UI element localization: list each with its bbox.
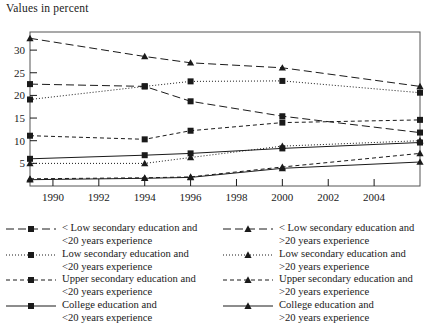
legend-label-line1: < Low secondary education and <box>62 222 197 235</box>
legend-label-line2: <20 years experience <box>62 261 217 274</box>
plot-frame <box>30 32 420 186</box>
legend-label-line2: >20 years experience <box>279 261 434 274</box>
legend-swatch-square-solid <box>0 299 62 312</box>
legend-label-line2: >20 years experience <box>279 312 434 325</box>
svg-text:1990: 1990 <box>42 191 65 203</box>
legend-label-line1: College education and <box>62 299 157 312</box>
svg-text:5: 5 <box>20 157 26 169</box>
svg-text:1998: 1998 <box>225 191 248 203</box>
svg-text:2004: 2004 <box>363 191 386 203</box>
svg-text:10: 10 <box>14 135 26 147</box>
legend-swatch-square-dotted <box>0 248 62 261</box>
legend-swatch-triangle-short-dash <box>217 273 279 286</box>
legend-item[interactable]: College education and <20 years experien… <box>0 299 217 325</box>
svg-text:20: 20 <box>14 89 26 101</box>
legend-item[interactable]: Low secondary education and >20 years ex… <box>217 248 434 274</box>
series-lines <box>26 35 423 183</box>
svg-text:15: 15 <box>14 112 26 124</box>
chart-legend: < Low secondary education and <20 years … <box>0 222 435 328</box>
legend-item[interactable]: < Low secondary education and >20 years … <box>217 222 434 248</box>
legend-swatch-square-short-dash <box>0 273 62 286</box>
legend-swatch-triangle-solid <box>217 299 279 312</box>
legend-item[interactable]: < Low secondary education and <20 years … <box>0 222 217 248</box>
legend-swatch-triangle-dotted <box>217 248 279 261</box>
y-axis-title: Values in percent <box>6 2 89 14</box>
legend-label-line1: College education and <box>279 299 374 312</box>
svg-text:1994: 1994 <box>134 191 157 203</box>
legend-label-line1: Low secondary education and <box>279 248 406 261</box>
legend-item[interactable]: Upper secondary education and >20 years … <box>217 273 434 299</box>
line-chart-svg: 5101520253019901992199419961998200020022… <box>0 14 435 204</box>
svg-text:25: 25 <box>14 67 26 79</box>
legend-item[interactable]: College education and >20 years experien… <box>217 299 434 325</box>
legend-column-right: < Low secondary education and >20 years … <box>217 222 434 328</box>
legend-item[interactable]: Low secondary education and <20 years ex… <box>0 248 217 274</box>
legend-label-line1: < Low secondary education and <box>279 222 414 235</box>
legend-item[interactable]: Upper secondary education and <20 years … <box>0 273 217 299</box>
legend-label-line1: Upper secondary education and <box>62 273 196 286</box>
legend-swatch-triangle-long-dash <box>217 222 279 235</box>
svg-text:2000: 2000 <box>271 191 294 203</box>
axis-ticks <box>30 50 374 186</box>
legend-label-line2: >20 years experience <box>279 286 434 299</box>
chart-figure: Values in percent 5101520253019901992199… <box>0 0 435 328</box>
plot-area: 5101520253019901992199419961998200020022… <box>0 14 435 200</box>
legend-label-line2: >20 years experience <box>279 235 434 248</box>
svg-text:1992: 1992 <box>88 191 110 203</box>
svg-text:1996: 1996 <box>180 191 203 203</box>
legend-label-line1: Upper secondary education and <box>279 273 413 286</box>
svg-text:2002: 2002 <box>317 191 339 203</box>
svg-text:30: 30 <box>14 44 26 56</box>
legend-swatch-square-long-dash <box>0 222 62 235</box>
legend-label-line2: <20 years experience <box>62 312 217 325</box>
legend-label-line1: Low secondary education and <box>62 248 189 261</box>
legend-column-left: < Low secondary education and <20 years … <box>0 222 217 328</box>
legend-label-line2: <20 years experience <box>62 286 217 299</box>
legend-label-line2: <20 years experience <box>62 235 217 248</box>
